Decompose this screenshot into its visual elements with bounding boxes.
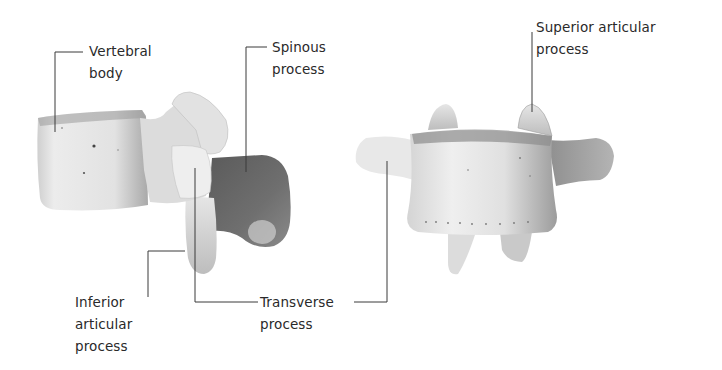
leader-inferior-articular — [148, 251, 185, 297]
anterior-vertebra — [356, 104, 614, 274]
superior-articular-right — [518, 104, 552, 136]
transverse-process-left — [356, 136, 414, 180]
label-vertebral-body: Vertebral body — [89, 40, 152, 84]
transverse-process-shape — [172, 146, 212, 199]
inferior-articular-left — [448, 228, 476, 274]
vertebral-body-shape — [37, 110, 148, 210]
label-spinous-process: Spinous process — [272, 36, 326, 80]
label-superior-articular-process: Superior articular process — [536, 16, 656, 60]
inferior-articular-process-shape — [185, 196, 216, 274]
leader-spinous-process — [246, 47, 267, 172]
vertebra-diagram: Vertebral body Spinous process Superior … — [0, 0, 722, 370]
superior-articular-left — [428, 104, 458, 130]
lateral-vertebra — [37, 92, 290, 274]
label-transverse-process: Transverse process — [260, 291, 334, 335]
leader-transverse-anterior — [354, 161, 387, 302]
inferior-articular-right — [500, 232, 532, 262]
label-inferior-articular-process: Inferior articular process — [75, 291, 132, 357]
transverse-process-right — [548, 138, 614, 186]
anterior-body-shape — [407, 130, 557, 235]
